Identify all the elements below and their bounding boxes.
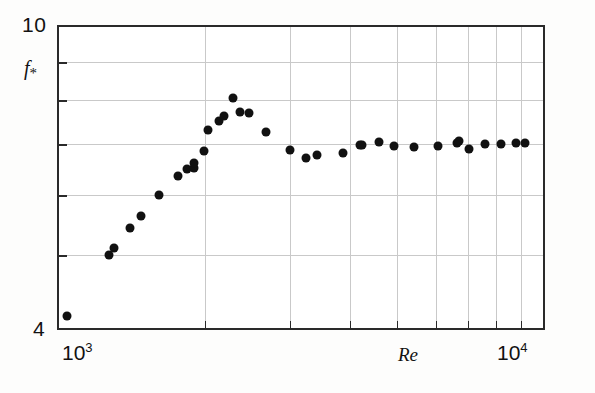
x-tick-6000 <box>436 321 437 329</box>
data-point <box>285 145 294 154</box>
x-tick-9000 <box>521 321 522 329</box>
x-axis-min-label: 103 <box>62 341 93 365</box>
gridline-y-6 <box>59 195 543 196</box>
gridline-y-5 <box>59 255 543 256</box>
x-axis-title: Re <box>398 344 418 366</box>
data-point <box>245 108 254 117</box>
x-axis-min-exponent: 3 <box>85 340 92 355</box>
data-point <box>63 311 72 320</box>
x-axis-max-label: 104 <box>497 341 528 365</box>
x-tick-3000 <box>290 321 291 329</box>
data-point <box>358 141 367 150</box>
data-point <box>155 190 164 199</box>
data-point <box>389 141 398 150</box>
scatter-plot-figure: 10 f* 4 103 Re 104 <box>0 0 595 393</box>
data-point <box>236 108 245 117</box>
gridline-x-4000 <box>350 27 351 328</box>
data-point <box>137 212 146 221</box>
x-axis-max-mantissa: 10 <box>497 341 520 364</box>
y-tick-8 <box>58 100 67 102</box>
data-point <box>496 140 505 149</box>
x-axis-max-exponent: 4 <box>520 340 527 355</box>
gridline-x-7000 <box>468 27 469 328</box>
y-tick-6 <box>58 195 67 197</box>
y-tick-5 <box>58 255 67 257</box>
x-axis-min-mantissa: 10 <box>62 341 85 364</box>
y-axis-title: f* <box>24 57 37 82</box>
y-axis-max-label: 10 <box>22 13 46 37</box>
data-point <box>338 148 347 157</box>
x-tick-5000 <box>397 321 398 329</box>
data-point <box>312 150 321 159</box>
data-point <box>173 171 182 180</box>
gridline-y-9 <box>59 62 543 63</box>
y-tick-7 <box>58 144 67 146</box>
y-tick-9 <box>58 62 67 64</box>
data-point <box>203 126 212 135</box>
plot-area <box>57 25 545 330</box>
data-point <box>190 158 199 167</box>
x-tick-8000 <box>496 321 497 329</box>
gridline-y-8 <box>59 100 543 101</box>
data-point <box>262 128 271 137</box>
gridline-x-2000 <box>205 27 206 328</box>
data-point <box>374 137 383 146</box>
data-point <box>302 153 311 162</box>
gridline-x-6000 <box>436 27 437 328</box>
data-point <box>199 147 208 156</box>
data-point <box>455 137 464 146</box>
data-point <box>219 112 228 121</box>
data-point <box>229 94 238 103</box>
y-axis-title-subscript: * <box>30 65 38 81</box>
x-tick-4000 <box>350 321 351 329</box>
data-point <box>110 244 119 253</box>
data-point <box>521 139 530 148</box>
data-point <box>481 140 490 149</box>
gridline-x-3000 <box>290 27 291 328</box>
data-point <box>464 144 473 153</box>
gridline-x-9000 <box>521 27 522 328</box>
y-axis-min-label: 4 <box>33 317 45 341</box>
x-tick-7000 <box>468 321 469 329</box>
data-point <box>125 224 134 233</box>
data-point <box>512 139 521 148</box>
gridline-x-8000 <box>496 27 497 328</box>
data-point <box>433 141 442 150</box>
data-point <box>410 143 419 152</box>
gridline-x-5000 <box>397 27 398 328</box>
x-tick-2000 <box>205 321 206 329</box>
